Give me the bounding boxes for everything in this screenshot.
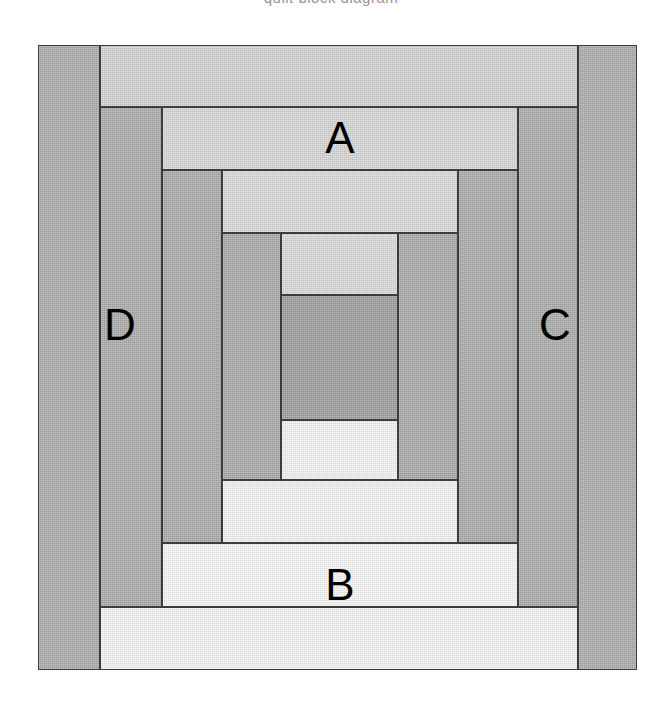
round1-top-strip: [281, 233, 398, 295]
round4-left-strip: [38, 45, 100, 670]
round2-left-strip: [162, 170, 222, 543]
round1-left-strip: [222, 233, 281, 480]
cropped-heading-text: quilt block diagram: [0, 0, 662, 10]
round2-bottom-strip: [222, 480, 458, 543]
round3-top-strip-A: [162, 107, 518, 170]
round4-bottom-strip: [100, 607, 578, 670]
round4-right-strip: [578, 45, 637, 670]
log-cabin-quilt-block: ADCB: [38, 45, 637, 670]
center-square: [281, 295, 398, 420]
cropped-heading-label: quilt block diagram: [264, 0, 399, 6]
round1-bottom-strip: [281, 420, 398, 480]
round4-top-strip: [100, 45, 578, 107]
round2-top-strip: [222, 170, 458, 233]
round3-right-strip-C: [518, 107, 578, 607]
round3-left-strip-D: [100, 107, 162, 607]
round3-bottom-strip-B: [162, 543, 518, 607]
round1-right-strip: [398, 233, 458, 480]
round2-right-strip: [458, 170, 518, 543]
